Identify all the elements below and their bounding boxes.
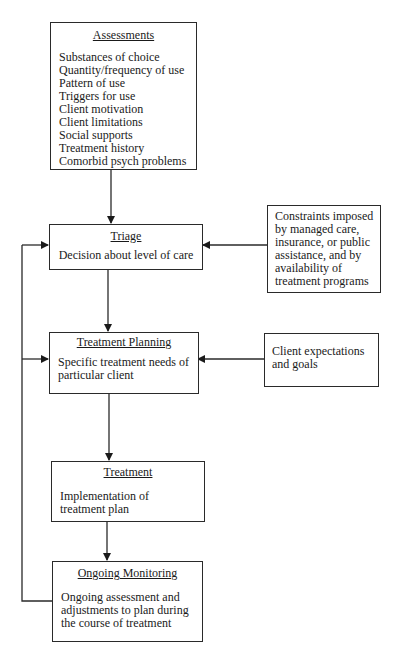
ongoing-monitoring-title: Ongoing Monitoring: [53, 567, 202, 580]
treatment-planning-description: Specific treatment needs of particular c…: [50, 356, 198, 382]
constraints-box: Constraints imposed by managed care, ins…: [267, 205, 381, 293]
treatment-description: Implementation of treatment plan: [52, 490, 204, 516]
ongoing-monitoring-description: Ongoing assessment and adjustments to pl…: [53, 591, 202, 630]
treatment-box: Treatment Implementation of treatment pl…: [51, 461, 205, 522]
treatment-planning-box: Treatment Planning Specific treatment ne…: [49, 332, 199, 394]
constraints-line: treatment programs: [275, 275, 380, 288]
treatment-planning-title: Treatment Planning: [50, 336, 198, 349]
ongoing-monitoring-box: Ongoing Monitoring Ongoing assessment an…: [52, 561, 203, 642]
client-expectations-text: Client expectations and goals: [272, 345, 368, 371]
assessments-title: Assessments: [51, 29, 196, 42]
assessment-item: Comorbid psych problems: [59, 155, 196, 168]
triage-box: Triage Decision about level of care: [49, 224, 203, 270]
triage-description: Decision about level of care: [50, 249, 202, 262]
assessments-list: Substances of choice Quantity/frequency …: [51, 51, 196, 168]
triage-title: Triage: [50, 230, 202, 243]
feedback-loop-line: [22, 245, 52, 601]
client-expectations-box: Client expectations and goals: [264, 333, 379, 387]
treatment-title: Treatment: [52, 466, 204, 479]
assessments-box: Assessments Substances of choice Quantit…: [50, 22, 197, 170]
